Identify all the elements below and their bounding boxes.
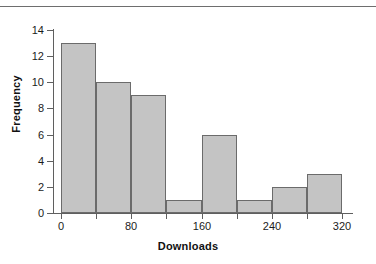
histogram-bar <box>272 187 307 213</box>
x-tick-80 <box>131 214 132 219</box>
histogram-bar <box>96 82 131 213</box>
x-axis-title: Downloads <box>0 240 376 252</box>
x-tick-label-160: 160 <box>182 221 222 232</box>
histogram-bar <box>131 95 166 213</box>
histogram-bar <box>237 200 272 213</box>
histogram-bar <box>307 174 342 213</box>
x-tick-0 <box>61 214 62 219</box>
plot-area <box>61 30 342 213</box>
y-axis-title: Frequency <box>10 49 22 159</box>
histogram-figure: 02468101214 080160240320 Frequency Downl… <box>0 0 376 264</box>
y-axis-line <box>53 29 54 214</box>
histogram-bar <box>166 200 201 213</box>
histogram-bar <box>202 135 237 213</box>
x-tick-label-0: 0 <box>41 221 81 232</box>
x-tick-280 <box>307 214 308 219</box>
x-tick-200 <box>237 214 238 219</box>
histogram-bar <box>61 43 96 213</box>
y-axis-title-container: Frequency <box>4 0 24 230</box>
x-tick-240 <box>272 214 273 219</box>
y-tick-10 <box>47 82 53 83</box>
x-tick-40 <box>96 214 97 219</box>
y-tick-2 <box>47 187 53 188</box>
x-tick-320 <box>342 214 343 219</box>
y-tick-4 <box>47 161 53 162</box>
y-tick-8 <box>47 108 53 109</box>
y-tick-14 <box>47 30 53 31</box>
x-tick-120 <box>166 214 167 219</box>
y-tick-12 <box>47 56 53 57</box>
x-tick-160 <box>202 214 203 219</box>
x-tick-label-240: 240 <box>252 221 292 232</box>
y-tick-6 <box>47 135 53 136</box>
x-tick-label-320: 320 <box>322 221 362 232</box>
x-tick-label-80: 80 <box>111 221 151 232</box>
top-divider-rule <box>0 6 376 7</box>
x-axis-line <box>53 213 353 214</box>
